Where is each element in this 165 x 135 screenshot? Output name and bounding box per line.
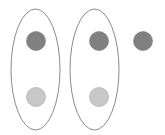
node-dark-left-top[interactable]	[27, 32, 46, 51]
canvas-background	[0, 0, 165, 135]
node-dark-right-top[interactable]	[90, 32, 109, 51]
node-light-right-bottom[interactable]	[90, 88, 109, 107]
node-light-left-bottom[interactable]	[27, 88, 46, 107]
diagram-canvas	[0, 0, 165, 135]
node-dark-outside[interactable]	[134, 32, 153, 51]
set-diagram	[0, 0, 165, 135]
